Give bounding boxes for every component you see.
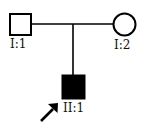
proband-arrow-icon bbox=[41, 103, 58, 121]
label-I-1: I:1 bbox=[10, 37, 26, 51]
individual-I-1-male-unaffected bbox=[10, 14, 31, 35]
label-II-1: II:1 bbox=[63, 101, 84, 115]
individual-II-1-male-affected bbox=[62, 75, 85, 99]
individual-I-2-female-unaffected bbox=[114, 14, 136, 36]
label-I-2: I:2 bbox=[114, 38, 130, 52]
